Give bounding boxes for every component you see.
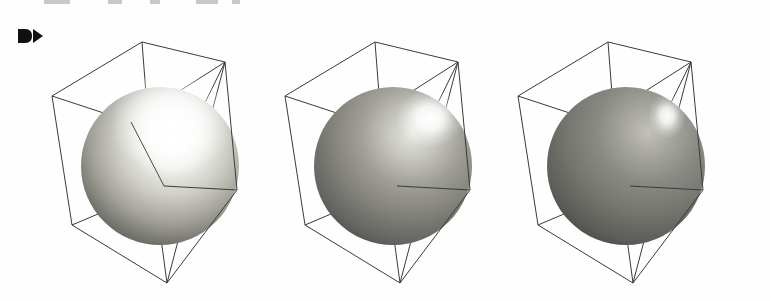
figure-page: ▶▶ (0, 0, 770, 301)
figure-panel-2: Sphere with medium, mid-exponent specula… (233, 0, 491, 301)
figure-panel-1: Sphere with broad, low-exponent specular… (0, 0, 258, 301)
figure-panel-3: Sphere with tight, high-exponent specula… (466, 0, 724, 301)
